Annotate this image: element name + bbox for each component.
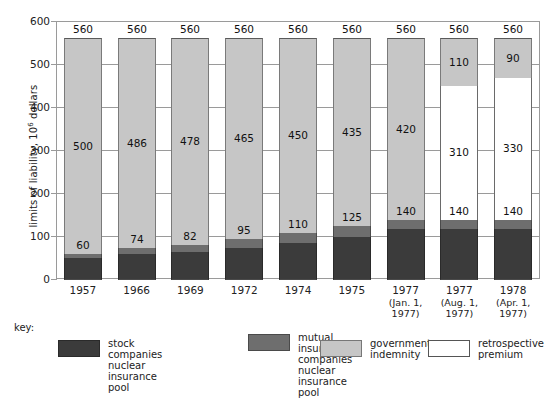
legend-title: key: bbox=[14, 322, 34, 333]
legend-item-label: government indemnity bbox=[370, 338, 431, 360]
x-tick-label-year: 1957 bbox=[70, 284, 97, 296]
x-tick-label-subline-1: (Apr. 1, bbox=[479, 297, 547, 309]
x-tick-label-year: 1977 bbox=[392, 284, 419, 296]
x-tick-label-year: 1974 bbox=[285, 284, 312, 296]
x-tick-label-year: 1975 bbox=[338, 284, 365, 296]
x-tick-label-subline-2: 1977) bbox=[479, 308, 547, 320]
retrospective-premium-swatch bbox=[428, 340, 470, 357]
x-tick-label-year: 1978 bbox=[500, 284, 527, 296]
x-tick-label-year: 1966 bbox=[123, 284, 150, 296]
legend-item-label: retrospective premium bbox=[478, 338, 544, 360]
legend-item-label: stock companies nuclear insurance pool bbox=[108, 338, 162, 393]
x-tick-label-year: 1977 bbox=[446, 284, 473, 296]
stock-pool-swatch bbox=[58, 340, 100, 357]
chart-legend: key: stock companies nuclear insurance p… bbox=[10, 322, 544, 378]
x-tick-label-year: 1969 bbox=[177, 284, 204, 296]
government-indemnity-swatch bbox=[320, 340, 362, 357]
x-tick-label-year: 1972 bbox=[231, 284, 258, 296]
mutual-pool-swatch bbox=[248, 334, 290, 351]
x-tick-label: 1978(Apr. 1,1977) bbox=[479, 285, 547, 320]
